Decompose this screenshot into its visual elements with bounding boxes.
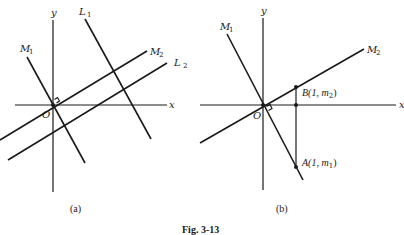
panel-b-point-a (294, 165, 298, 169)
panel-b-origin-label: O (253, 110, 261, 121)
panel-a-line-m2 (0, 51, 147, 140)
panel-a-origin-label: O (42, 109, 50, 120)
panel-a-label-l2: L 2 (173, 57, 187, 70)
svg-text:2: 2 (159, 51, 163, 59)
svg-text:1: 1 (229, 26, 233, 34)
panel-b-label-m1: M 1 (219, 21, 233, 34)
svg-text:2: 2 (183, 62, 187, 70)
svg-text:L: L (173, 57, 181, 68)
panel-b-point-b (294, 85, 298, 89)
panel-a-label-m2: M 2 (149, 46, 163, 59)
panel-a-x-label: x (169, 99, 175, 110)
panel-b-caption: (b) (276, 203, 288, 215)
svg-text:L: L (78, 6, 86, 17)
panel-a-label-m1: M 1 (19, 43, 33, 56)
panel-b-line-m1 (227, 34, 303, 180)
panel-a-line-m1 (27, 57, 85, 163)
panel-b-y-label: y (260, 5, 267, 16)
panel-b-label-point-b: B(1, m2) (302, 87, 336, 100)
panel-b: y x O M 1 M 2 B(1, m2) A(1, m1) (b) (200, 5, 404, 215)
figure-caption: Fig. 3-13 (182, 224, 219, 235)
svg-text:2: 2 (376, 49, 380, 57)
panel-a: y x O M 1 L 1 M 2 L 2 (a) (0, 6, 187, 215)
panel-a-origin-dot (51, 103, 55, 107)
svg-text:B(1, m2): B(1, m2) (302, 87, 336, 100)
panel-a-y-label: y (50, 7, 57, 18)
panel-b-line-m2 (200, 49, 364, 143)
panel-a-caption: (a) (70, 203, 81, 215)
panel-b-x-label: x (399, 99, 404, 110)
panel-b-label-m2: M 2 (366, 44, 380, 57)
panel-b-point-x1 (294, 103, 298, 107)
panel-a-label-l1: L 1 (78, 6, 91, 19)
panel-a-line-l2 (8, 63, 167, 160)
svg-text:1: 1 (29, 48, 33, 56)
figure-canvas: y x O M 1 L 1 M 2 L 2 (a) (0, 0, 404, 235)
panel-a-right-angle-marker (55, 98, 60, 104)
svg-text:1: 1 (87, 11, 91, 19)
svg-text:A(1, m1): A(1, m1) (301, 157, 336, 170)
panel-b-label-point-a: A(1, m1) (301, 157, 336, 170)
panel-b-origin-dot (261, 103, 265, 107)
